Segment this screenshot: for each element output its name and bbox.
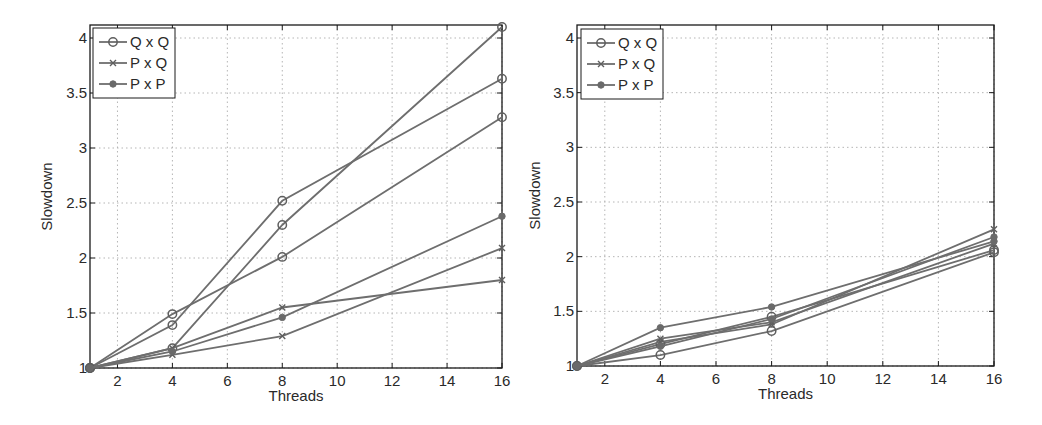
legend-label: P x Q — [130, 54, 167, 71]
y-axis-label: Slowdown — [38, 162, 55, 230]
y-tick-label: 2 — [79, 249, 87, 266]
data-series — [573, 226, 998, 370]
slowdown-charts: 24681012141611.522.533.54ThreadsSlowdown… — [0, 0, 1042, 425]
dot-marker-icon — [657, 343, 663, 349]
y-tick-label: 3 — [79, 139, 87, 156]
x-tick-label: 12 — [874, 370, 891, 387]
x-tick-label: 4 — [168, 372, 176, 389]
dot-legend-marker-icon — [110, 81, 116, 87]
dot-marker-icon — [768, 304, 774, 310]
dot-marker-icon — [87, 365, 93, 371]
series-line — [87, 213, 505, 371]
y-tick-label: 1.5 — [66, 304, 87, 321]
x-tick-label: 10 — [329, 372, 346, 389]
dot-marker-icon — [991, 234, 997, 240]
legend-label: P x Q — [618, 55, 655, 72]
y-tick-label: 2.5 — [553, 193, 574, 210]
dot-marker-icon — [574, 363, 580, 369]
dot-marker-icon — [768, 316, 774, 322]
dot-marker-icon — [169, 348, 175, 354]
legend: Q x QP x QP x P — [93, 28, 175, 98]
x-tick-label: 2 — [601, 370, 609, 387]
legend-label: P x P — [130, 75, 166, 92]
y-tick-label: 2 — [566, 248, 574, 265]
dot-marker-icon — [279, 314, 285, 320]
right-chart-panel: 24681012141611.522.533.54ThreadsSlowdown… — [526, 25, 1002, 402]
y-tick-label: 1.5 — [553, 302, 574, 319]
x-tick-label: 14 — [439, 372, 456, 389]
y-tick-label: 3 — [566, 138, 574, 155]
x-tick-label: 6 — [712, 370, 720, 387]
legend-label: P x P — [618, 76, 654, 93]
series-line — [86, 75, 506, 373]
x-tick-label: 4 — [656, 370, 664, 387]
x-tick-label: 16 — [986, 370, 1003, 387]
series-line — [574, 226, 997, 369]
y-axis-label: Slowdown — [526, 161, 543, 229]
x-tick-label: 12 — [384, 372, 401, 389]
x-axis-label: Threads — [268, 387, 323, 404]
y-tick-label: 4 — [566, 29, 574, 46]
legend-label: Q x Q — [618, 34, 657, 51]
x-tick-label: 6 — [223, 372, 231, 389]
series-line — [87, 245, 505, 371]
y-tick-label: 2.5 — [66, 194, 87, 211]
y-tick-label: 4 — [79, 29, 87, 46]
x-tick-label: 16 — [494, 372, 511, 389]
dot-marker-icon — [657, 325, 663, 331]
x-tick-label: 10 — [819, 370, 836, 387]
x-axis-label: Threads — [758, 385, 813, 402]
y-tick-label: 3.5 — [66, 84, 87, 101]
x-tick-label: 2 — [113, 372, 121, 389]
y-tick-label: 3.5 — [553, 84, 574, 101]
legend: Q x QP x QP x P — [581, 29, 663, 99]
left-chart-panel: 24681012141611.522.533.54ThreadsSlowdown… — [38, 23, 510, 404]
dot-legend-marker-icon — [598, 82, 604, 88]
dot-marker-icon — [499, 213, 505, 219]
legend-label: Q x Q — [130, 33, 169, 50]
x-tick-label: 14 — [930, 370, 947, 387]
